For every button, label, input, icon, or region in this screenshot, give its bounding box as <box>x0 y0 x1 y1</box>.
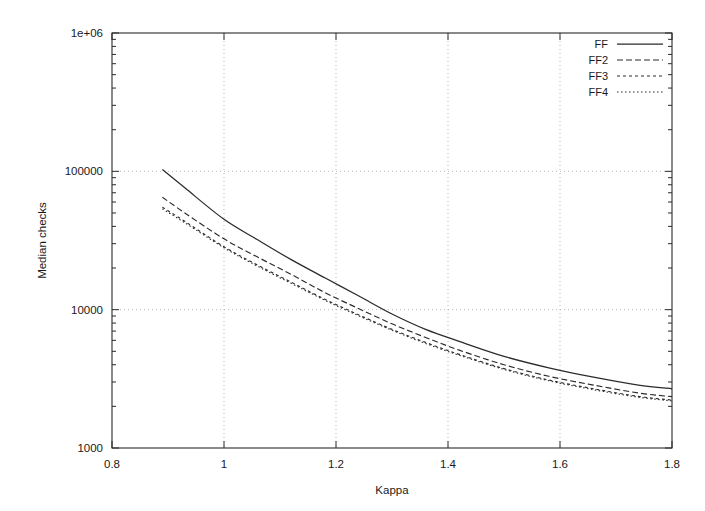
x-tick-label: 1 <box>221 458 227 470</box>
y-tick-label: 1e+06 <box>71 27 103 39</box>
x-tick-label: 1.6 <box>552 458 568 470</box>
x-tick-label: 0.8 <box>104 458 120 470</box>
legend-label-ff4: FF4 <box>588 86 608 98</box>
y-tick-label: 1000 <box>77 442 103 454</box>
y-tick-label: 10000 <box>71 304 103 316</box>
y-axis-title: Median checks <box>36 202 48 279</box>
y-tick-label: 100000 <box>65 165 103 177</box>
x-axis-title: Kappa <box>375 484 409 496</box>
legend-label-ff2: FF2 <box>588 54 608 66</box>
chart-canvas: 1000100001000001e+060.811.21.41.61.8 Kap… <box>0 0 705 511</box>
x-tick-label: 1.2 <box>328 458 344 470</box>
legend-label-ff: FF <box>595 38 609 50</box>
legend-label-ff3: FF3 <box>588 70 608 82</box>
x-tick-label: 1.8 <box>664 458 680 470</box>
x-tick-label: 1.4 <box>440 458 457 470</box>
chart-figure: 1000100001000001e+060.811.21.41.61.8 Kap… <box>0 0 705 511</box>
